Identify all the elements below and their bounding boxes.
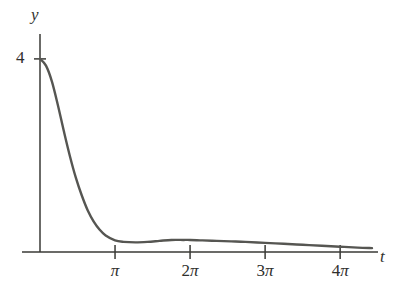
t-axis-label: t	[380, 248, 385, 265]
axes-group	[22, 34, 378, 252]
x-tick-pi-symbol-2: π	[265, 261, 274, 280]
y-axis-label: y	[31, 6, 39, 23]
chart-figure: y t 4 π2π3π4π	[0, 0, 400, 303]
x-tick-number-1: 2	[182, 261, 191, 280]
x-tick-label-2: 3π	[245, 262, 285, 279]
x-tick-label-3: 4π	[320, 262, 360, 279]
x-tick-label-1: 2π	[170, 262, 210, 279]
y-tick-label-4: 4	[16, 49, 25, 66]
data-curve	[40, 59, 372, 248]
plot-area	[0, 0, 400, 303]
x-tick-number-2: 3	[257, 261, 266, 280]
x-tick-number-3: 4	[332, 261, 341, 280]
x-tick-pi-symbol-3: π	[340, 261, 349, 280]
x-tick-label-0: π	[95, 262, 135, 279]
x-tick-pi-symbol-1: π	[190, 261, 199, 280]
tick-marks-group	[34, 59, 340, 259]
x-tick-pi-symbol-0: π	[111, 261, 120, 280]
